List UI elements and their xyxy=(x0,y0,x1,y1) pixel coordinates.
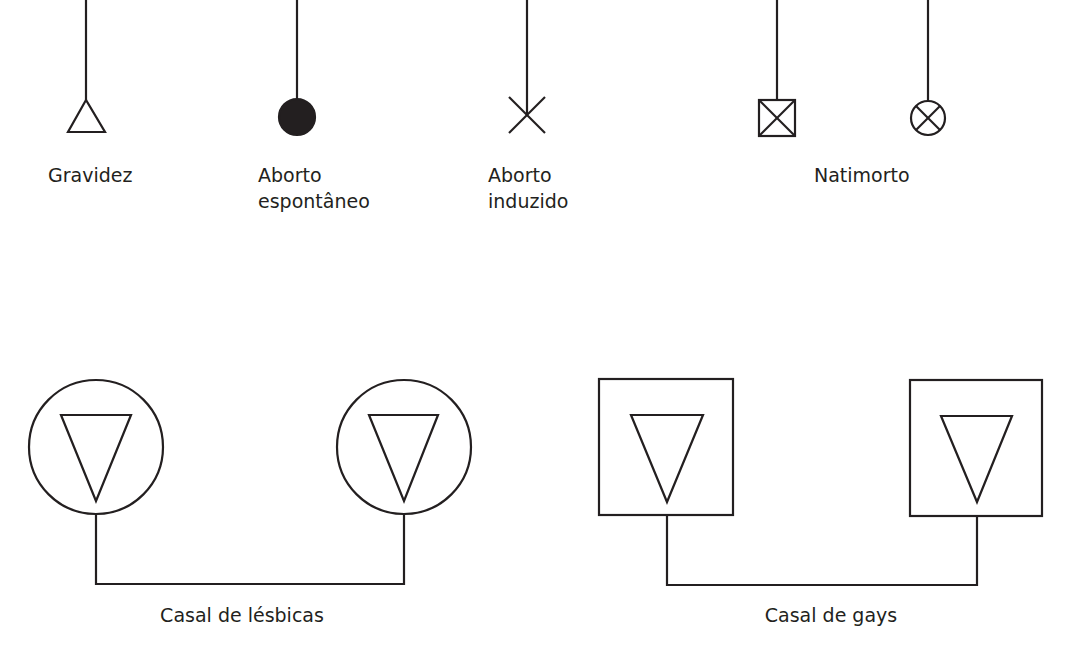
spontaneous-abortion-symbol xyxy=(279,0,315,135)
label-gravidez: Gravidez xyxy=(48,162,132,188)
label-aborto-induzido: Aborto induzido xyxy=(488,162,568,214)
inverted-triangle-icon xyxy=(61,415,131,501)
stillbirth-female-symbol xyxy=(911,0,945,135)
induced-abortion-symbol xyxy=(509,0,545,133)
pedigree-diagram xyxy=(0,0,1066,646)
square-icon xyxy=(599,379,733,515)
inverted-triangle-icon xyxy=(369,415,438,501)
label-casal-lesbicas: Casal de lésbicas xyxy=(160,602,324,628)
filled-circle-icon xyxy=(279,99,315,135)
partnership-line xyxy=(667,515,977,585)
gay-couple-symbol xyxy=(599,379,1042,585)
circle-icon xyxy=(29,380,163,514)
pregnancy-symbol xyxy=(68,0,105,132)
triangle-icon xyxy=(68,100,105,132)
inverted-triangle-icon xyxy=(631,415,703,502)
circle-icon xyxy=(337,380,471,514)
label-casal-gays: Casal de gays xyxy=(765,602,897,628)
label-aborto-espontaneo: Aborto espontâneo xyxy=(258,162,370,214)
label-natimorto: Natimorto xyxy=(814,162,910,188)
inverted-triangle-icon xyxy=(941,416,1012,502)
lesbian-couple-symbol xyxy=(29,380,471,584)
square-icon xyxy=(910,380,1042,516)
partnership-line xyxy=(96,514,404,584)
stillbirth-male-symbol xyxy=(759,0,795,136)
